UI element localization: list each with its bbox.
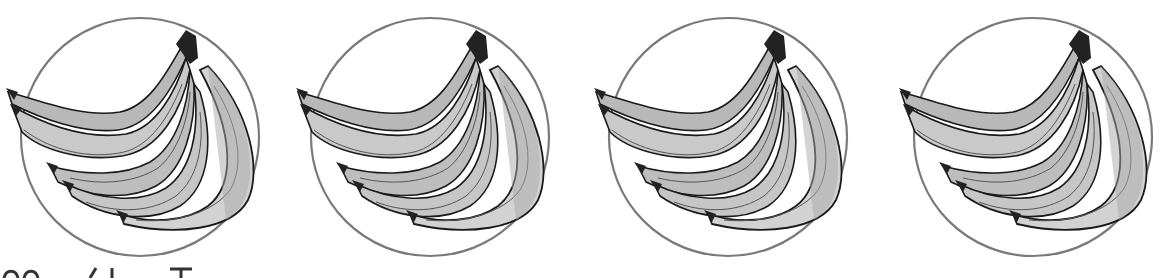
banana-panel-3 [588, 0, 878, 278]
banana-bunch-icon [0, 0, 290, 278]
clipped-caption-fragment [2, 266, 252, 278]
banana-panel-4 [893, 0, 1158, 278]
banana-bunch-icon [893, 0, 1158, 278]
banana-panel-1 [0, 0, 290, 278]
banana-panel-2 [290, 0, 580, 278]
banana-bunch-icon [290, 0, 580, 278]
banana-bunch-icon [588, 0, 878, 278]
